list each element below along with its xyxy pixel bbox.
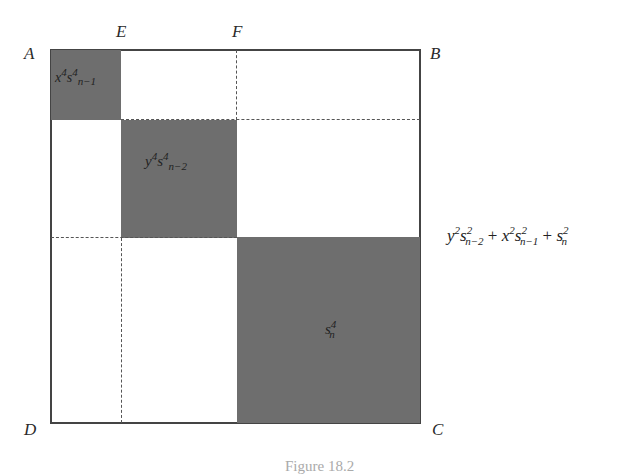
label-a: A — [24, 44, 34, 64]
shaded-square-middle — [121, 120, 237, 238]
dashed-line-h2 — [51, 237, 237, 238]
label-x4-s4-n-1: x4s4n−1 — [55, 66, 96, 87]
side-expression: y2s2n−2 + x2s2n−1 + s2n — [447, 224, 567, 247]
label-s4-n: s4n — [325, 318, 335, 340]
label-d: D — [24, 420, 36, 440]
label-b: B — [430, 44, 440, 64]
label-e: E — [116, 22, 126, 42]
label-c: C — [432, 420, 443, 440]
dashed-line-h1 — [121, 119, 420, 120]
figure-caption: Figure 18.2 — [285, 458, 354, 475]
dashed-line-v-e — [121, 238, 122, 423]
label-f: F — [232, 22, 242, 42]
label-y4-s4-n-2: y4s4n−2 — [145, 150, 187, 172]
dashed-line-v-f — [236, 50, 237, 120]
